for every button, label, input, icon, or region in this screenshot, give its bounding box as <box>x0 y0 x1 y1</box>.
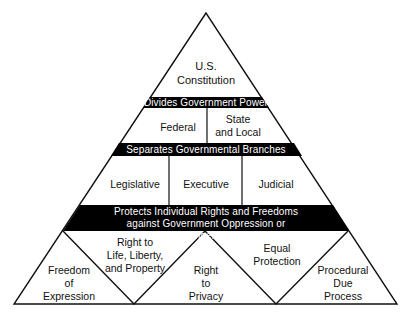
cell-executive: Executive <box>183 178 229 191</box>
apex-label: U.S. Constitution <box>177 59 235 87</box>
cell-legislative: Legislative <box>110 178 160 191</box>
cell-freedom-of-expression: Freedom of Expression <box>43 264 95 303</box>
cell-judicial: Judicial <box>258 178 293 191</box>
cell-right-to-privacy: Right to Privacy <box>189 264 223 303</box>
pyramid-outline <box>14 13 397 304</box>
cell-federal: Federal <box>160 121 196 134</box>
cell-right-to-life-liberty-property: Right to Life, Liberty, and Property <box>105 236 165 275</box>
cell-equal-protection: Equal Protection <box>253 242 300 268</box>
band-label-separates-branches: Separates Governmental Branches <box>126 144 285 156</box>
band-label-divides-power: Divides Government Power <box>144 97 268 109</box>
cell-state-and-local: State and Local <box>215 113 261 139</box>
cell-procedural-due-process: Procedural Due Process <box>318 264 369 303</box>
constitution-pyramid-diagram: U.S. Constitution Divides Government Pow… <box>0 0 408 317</box>
